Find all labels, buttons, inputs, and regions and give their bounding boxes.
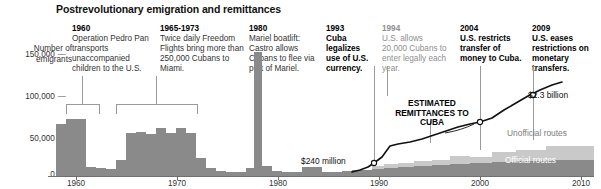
bar-1967 [126,133,136,176]
value-label-2-3-billion: $2.3 billion [528,90,568,100]
bar-1972 [176,128,186,176]
estimated-remittances-label: ESTIMATED REMITTANCES TO CUBA [386,99,478,128]
bar-1970 [156,128,166,176]
bar-1975 [206,168,216,176]
bar-1966 [116,160,126,176]
area-official-7 [470,163,492,176]
x-label-2000: 2000 [471,179,489,188]
legend-official-routes: Official routes [505,155,556,165]
plot-area [56,24,594,176]
bar-1965 [106,169,116,176]
bar-1971 [166,133,176,176]
bar-1973 [186,133,196,176]
bar-1969 [146,134,156,176]
x-label-2010: 2010 [572,179,590,188]
bar-1962 [76,119,86,176]
chart-figure: Postrevolutionary emigration and remitta… [0,0,601,189]
x-label-1960: 1960 [67,179,85,188]
area-official-4 [414,166,432,176]
x-label-1970: 1970 [168,179,186,188]
bar-1968 [136,132,146,176]
bar-1961 [66,119,76,176]
value-label-240-million: $240 million [301,156,346,166]
bar-1974 [196,158,206,176]
bar-1960 [56,124,66,176]
area-official-2 [384,168,398,176]
page-title: Postrevolutionary emigration and remitta… [56,3,281,15]
x-label-1990: 1990 [370,179,388,188]
bar-1980-mariel [254,52,262,176]
bar-1986 [312,167,322,176]
x-axis-baseline [48,176,594,177]
bar-1981 [262,166,272,176]
area-official-1 [372,169,384,176]
bar-1985 [302,167,312,176]
bar-1963 [86,167,96,176]
legend-unofficial-routes: Unofficial routes [505,129,569,139]
area-official-6 [450,164,470,176]
area-official-3 [398,167,414,176]
bar-1964 [96,168,106,176]
area-official-5 [432,165,450,176]
x-label-1980: 1980 [269,179,287,188]
